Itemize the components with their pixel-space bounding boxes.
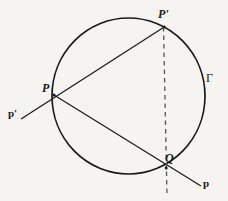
label-line-p: p xyxy=(203,178,209,189)
dashed-line-pprime-q xyxy=(164,27,168,196)
point-p-marker xyxy=(53,94,56,97)
label-line-p-prime: p' xyxy=(8,108,17,119)
line-p-prime xyxy=(21,27,165,120)
geometry-figure: P P' Q p' p Γ xyxy=(0,0,228,201)
line-p xyxy=(54,95,201,186)
label-point-p: P xyxy=(42,82,49,94)
label-point-p-prime: P' xyxy=(158,8,169,20)
circle-gamma xyxy=(52,18,205,174)
point-q-marker xyxy=(165,167,168,170)
label-circle-gamma: Γ xyxy=(206,72,213,84)
label-point-q: Q xyxy=(165,152,174,164)
point-p-prime-marker xyxy=(163,26,166,29)
figure-canvas xyxy=(0,0,228,201)
